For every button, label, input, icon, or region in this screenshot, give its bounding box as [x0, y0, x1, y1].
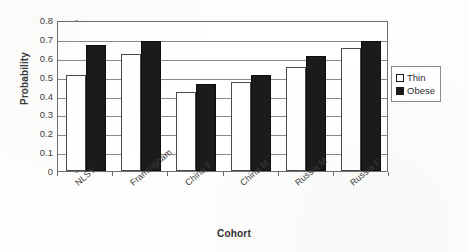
bar-group	[113, 22, 168, 171]
x-axis-tick-mark	[388, 172, 389, 176]
legend-item-obese: Obese	[396, 84, 435, 97]
bar-obese-russia-f	[361, 41, 381, 171]
x-axis-title: Cohort	[0, 228, 468, 239]
x-axis-tick-mark	[57, 172, 58, 176]
y-axis-tick-label: 0	[20, 167, 53, 177]
legend: ThinObese	[391, 66, 441, 102]
black-square-icon	[396, 87, 404, 95]
bar-thin-framingham	[121, 54, 141, 171]
bar-thin-china-m	[231, 82, 251, 171]
y-axis-tick-label: 0.5	[20, 73, 53, 83]
bar-obese-china-f	[196, 84, 216, 171]
bar-thin-russia-m	[286, 67, 306, 171]
bar-obese-russia-m	[306, 56, 326, 171]
y-axis-tick-label: 0.1	[20, 148, 53, 158]
y-axis-tick-label: 0.2	[20, 130, 53, 140]
bar-thin-russia-f	[341, 48, 361, 171]
bar-thin-china-f	[176, 92, 196, 171]
x-axis-tick-mark	[167, 172, 168, 176]
y-axis-tick-label: 0.3	[20, 111, 53, 121]
y-axis-tick-label: 0.6	[20, 54, 53, 64]
x-axis-tick-mark	[112, 172, 113, 176]
x-axis-tick-mark	[333, 172, 334, 176]
legend-label: Thin	[407, 73, 425, 83]
x-axis-tick-mark	[278, 172, 279, 176]
bar-obese-nlsy	[86, 45, 106, 171]
legend-item-thin: Thin	[396, 71, 435, 84]
bar-group	[58, 22, 113, 171]
white-square-icon	[396, 74, 404, 82]
y-axis-tick-label: 0.7	[20, 35, 53, 45]
bar-thin-nlsy	[66, 75, 86, 171]
legend-label: Obese	[407, 86, 435, 96]
plot-area	[57, 21, 388, 172]
y-axis-tick-label: 0.4	[20, 92, 53, 102]
bar-group	[334, 22, 389, 171]
x-axis-tick-mark	[223, 172, 224, 176]
bar-group	[168, 22, 223, 171]
bar-group	[279, 22, 334, 171]
bar-obese-framingham	[141, 41, 161, 171]
bar-chart-figure: Probability 00.10.20.30.40.50.60.70.8 NL…	[0, 0, 468, 252]
y-axis-tick-label: 0.8	[20, 16, 53, 26]
bar-series-container	[58, 22, 387, 171]
y-axis-tick-labels: 00.10.20.30.40.50.60.70.8	[20, 14, 53, 172]
bar-obese-china-m	[251, 75, 271, 171]
bar-group	[224, 22, 279, 171]
